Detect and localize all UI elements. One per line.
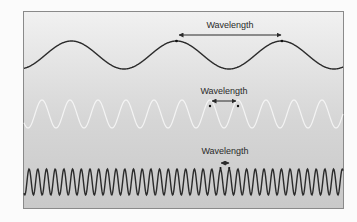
long-wave — [24, 41, 343, 69]
crest-dot — [228, 167, 230, 169]
waves-canvas — [0, 0, 357, 222]
wavelength-label-medium: Wavelength — [200, 86, 247, 96]
wavelength-label-short: Wavelength — [201, 146, 248, 156]
crest-dot — [281, 40, 284, 43]
crest-dot — [219, 167, 221, 169]
crest-dot — [175, 40, 178, 43]
short-wave — [24, 169, 343, 195]
crest-dot — [237, 105, 239, 107]
crest-dot — [209, 105, 211, 107]
medium-wave — [24, 100, 343, 128]
wavelength-label-long: Wavelength — [206, 20, 253, 30]
